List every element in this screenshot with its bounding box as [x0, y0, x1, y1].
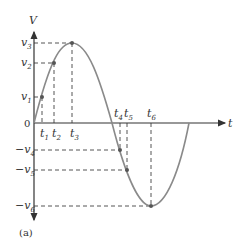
svg-text:−v5: −v5	[15, 163, 35, 178]
svg-text:v1: v1	[21, 90, 32, 105]
data-points	[40, 41, 153, 208]
svg-text:t4: t4	[114, 107, 123, 122]
svg-text:−v4: −v4	[15, 143, 35, 158]
svg-text:t3: t3	[70, 127, 79, 142]
svg-text:t5: t5	[124, 107, 133, 122]
sine-curve	[34, 43, 189, 206]
sine-wave-figure: V t 0 v3 v2 v1 −v4 −v5 −v6 t1 t2 t3 t4 t…	[0, 0, 243, 251]
svg-text:−v6: −v6	[15, 199, 35, 214]
x-tick-labels: t1 t2 t3 t4 t5 t6	[40, 107, 156, 142]
x-axis-label: t	[228, 117, 233, 130]
y-axis-label: V	[29, 14, 38, 27]
figure-caption: (a)	[19, 227, 33, 238]
svg-text:t2: t2	[52, 127, 61, 142]
svg-text:v2: v2	[21, 56, 32, 71]
svg-text:t6: t6	[147, 107, 156, 122]
origin-label: 0	[24, 118, 30, 129]
voltage-time-plot: V t 0 v3 v2 v1 −v4 −v5 −v6 t1 t2 t3 t4 t…	[0, 0, 243, 251]
svg-text:v3: v3	[21, 36, 32, 51]
svg-text:t1: t1	[40, 127, 49, 142]
